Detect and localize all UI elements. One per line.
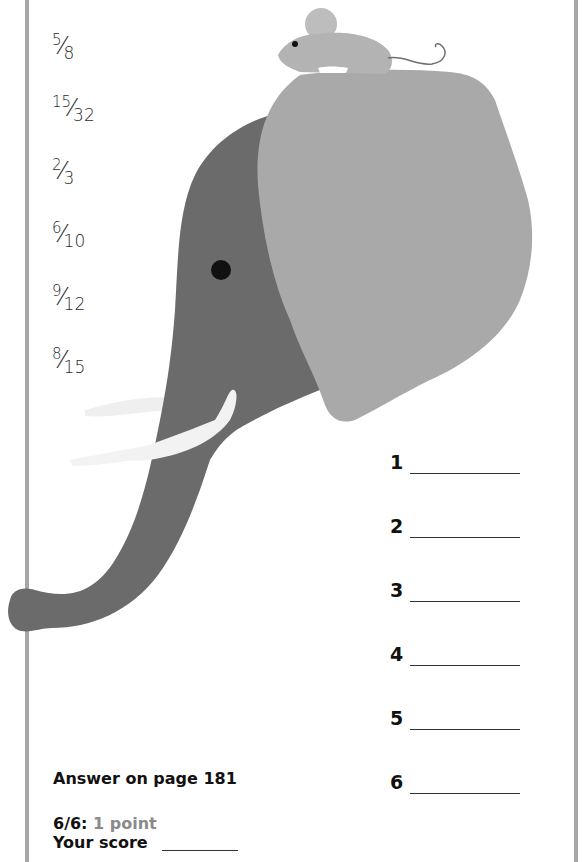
mouse-eye bbox=[292, 41, 298, 47]
answer-blank[interactable] bbox=[410, 473, 520, 474]
fraction-denominator: 15 bbox=[64, 357, 86, 377]
fraction-item: 6⁄10 bbox=[52, 218, 85, 246]
answer-row: 1 bbox=[390, 451, 530, 481]
answer-reference: Answer on page 181 bbox=[53, 769, 237, 788]
fraction-denominator: 3 bbox=[64, 168, 75, 188]
answer-row: 3 bbox=[390, 579, 530, 609]
answer-row: 2 bbox=[390, 515, 530, 545]
answer-blank[interactable] bbox=[410, 793, 520, 794]
score-rule: 6/6: 1 point bbox=[53, 815, 157, 833]
score-rule-label: 6/6: bbox=[53, 814, 88, 833]
answer-row: 5 bbox=[390, 707, 530, 737]
fraction-item: 8⁄15 bbox=[52, 344, 85, 372]
fraction-item: 5⁄8 bbox=[52, 30, 74, 58]
elephant-eye bbox=[211, 260, 231, 280]
your-score-label: Your score bbox=[53, 833, 148, 852]
fraction-denominator: 32 bbox=[73, 105, 95, 125]
answer-blank[interactable] bbox=[410, 537, 520, 538]
mouse bbox=[278, 8, 445, 74]
answer-row: 4 bbox=[390, 643, 530, 673]
answer-number: 6 bbox=[390, 771, 403, 793]
fraction-numerator: 15 bbox=[52, 93, 71, 111]
fraction-item: 2⁄3 bbox=[52, 155, 74, 183]
fraction-denominator: 10 bbox=[64, 231, 86, 251]
answer-number: 1 bbox=[390, 451, 403, 473]
answer-blank[interactable] bbox=[410, 601, 520, 602]
fraction-item: 9⁄12 bbox=[52, 281, 85, 309]
fraction-denominator: 12 bbox=[64, 294, 86, 314]
answer-number: 2 bbox=[390, 515, 403, 537]
answer-number: 3 bbox=[390, 579, 403, 601]
score-rule-points: 1 point bbox=[93, 814, 157, 833]
your-score-blank[interactable] bbox=[162, 850, 238, 851]
answer-blank[interactable] bbox=[410, 729, 520, 730]
fraction-item: 15⁄32 bbox=[52, 92, 95, 120]
answer-number: 5 bbox=[390, 707, 403, 729]
answer-blank[interactable] bbox=[410, 665, 520, 666]
fraction-denominator: 8 bbox=[64, 43, 75, 63]
answer-row: 6 bbox=[390, 771, 530, 801]
mouse-feet-gap bbox=[318, 67, 348, 74]
mouse-tail bbox=[388, 44, 445, 64]
answer-number: 4 bbox=[390, 643, 403, 665]
